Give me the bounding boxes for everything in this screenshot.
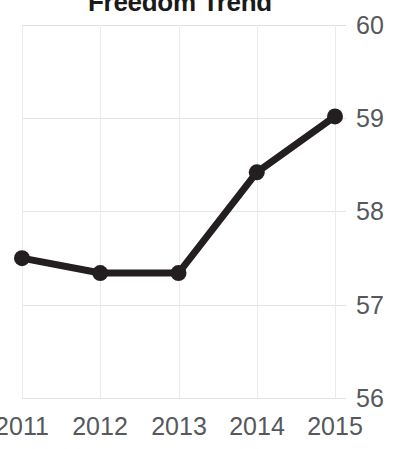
x-tick-label-2014: 2014 [217, 414, 297, 439]
x-tick-label-2013: 2013 [139, 414, 219, 439]
chart-container: Freedom Trend 60 59 58 57 56 2011 2012 2… [0, 0, 399, 449]
x-axis: 2011 2012 2013 2014 2015 [0, 0, 399, 449]
x-tick-label-2012: 2012 [60, 414, 140, 439]
x-tick-label-2015: 2015 [295, 414, 375, 439]
x-tick-label-2011: 2011 [0, 414, 62, 439]
